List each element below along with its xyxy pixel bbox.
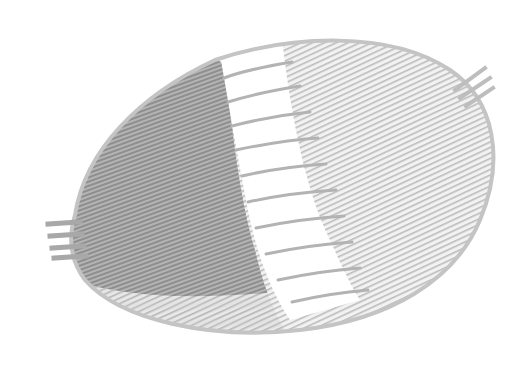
basket-body — [0, 0, 526, 379]
basket-illustration — [0, 0, 526, 379]
basket-photo — [0, 0, 526, 379]
